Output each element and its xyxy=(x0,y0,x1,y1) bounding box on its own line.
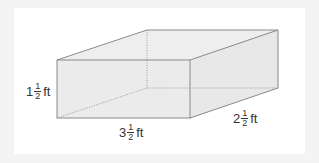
height-fraction: 1 2 xyxy=(34,82,41,101)
width-denominator: 2 xyxy=(242,119,247,128)
height-label: 1 1 2 ft xyxy=(26,82,50,101)
height-unit: ft xyxy=(43,85,50,98)
width-label: 2 1 2 ft xyxy=(233,109,257,128)
length-denominator: 2 xyxy=(128,133,133,142)
width-unit: ft xyxy=(250,112,257,125)
length-whole: 3 xyxy=(119,126,126,139)
height-denominator: 2 xyxy=(35,92,40,101)
width-fraction: 1 2 xyxy=(241,109,248,128)
width-whole: 2 xyxy=(233,112,240,125)
front-face xyxy=(57,60,190,118)
length-unit: ft xyxy=(136,126,143,139)
height-whole: 1 xyxy=(26,85,33,98)
length-label: 3 1 2 ft xyxy=(119,123,143,142)
length-fraction: 1 2 xyxy=(127,123,134,142)
